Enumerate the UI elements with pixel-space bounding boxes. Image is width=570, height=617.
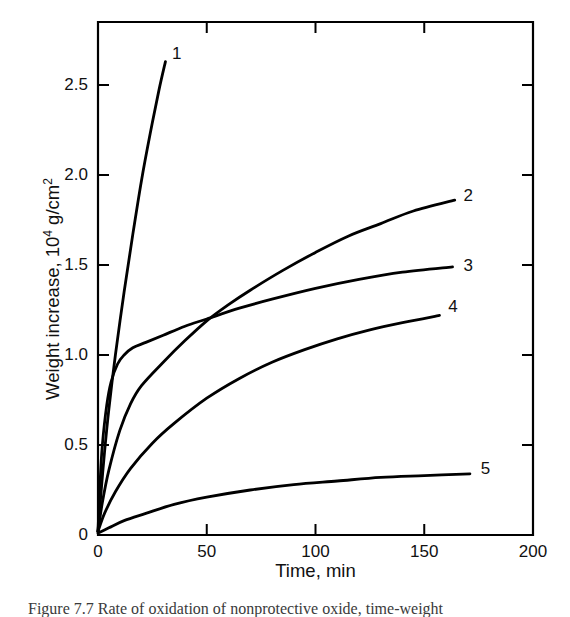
x-axis-title: Time, min bbox=[98, 560, 533, 582]
curve-label-1: 1 bbox=[172, 44, 181, 64]
x-tick-label: 150 bbox=[410, 542, 438, 562]
tick-marks bbox=[98, 22, 533, 535]
axis-frame bbox=[98, 22, 533, 535]
y-tick-label: 2.5 bbox=[20, 75, 88, 95]
y-tick-label: 0 bbox=[20, 525, 88, 545]
x-tick-label: 50 bbox=[197, 542, 216, 562]
curve-label-3: 3 bbox=[463, 256, 472, 276]
y-axis-title: Weight increase, 104 g/cm2 bbox=[42, 124, 64, 454]
x-tick-label: 200 bbox=[519, 542, 547, 562]
curve-label-2: 2 bbox=[463, 186, 472, 206]
x-tick-label: 100 bbox=[301, 542, 329, 562]
x-tick-label: 0 bbox=[93, 542, 102, 562]
curve-label-4: 4 bbox=[448, 297, 457, 317]
curve-label-5: 5 bbox=[481, 459, 490, 479]
figure-container: 00.51.01.52.02.5 050100150200 Weight inc… bbox=[0, 0, 570, 617]
data-curves bbox=[98, 62, 470, 534]
figure-caption: Figure 7.7 Rate of oxidation of nonprote… bbox=[28, 600, 558, 617]
